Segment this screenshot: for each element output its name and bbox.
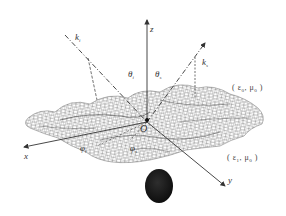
phi-s-subscript: s [135,149,137,154]
upper-medium-eps: ( ε [232,83,242,92]
z-axis-label: z [150,25,154,34]
diagram-graphics [0,0,286,216]
origin-point [145,118,149,122]
theta-s-subscript: s [159,75,161,80]
phi-s-label: φs [130,144,137,154]
k-s-subscript: s [206,63,208,68]
lower-medium-mu: , μ [240,153,250,162]
x-axis-label: x [24,152,28,161]
upper-medium-close: ) [257,83,263,92]
phi-i-label: φi [80,144,86,154]
phi-i-subscript: i [85,149,86,154]
lower-medium-close: ) [252,153,258,162]
k-i-label: ki [75,33,80,43]
lower-medium-label: ( ε1, μ0 ) [227,154,258,163]
theta-s-label: θs [155,70,161,80]
theta-i-subscript: i [132,75,133,80]
buried-object [145,169,173,203]
upper-medium-label: ( ε0, μ0 ) [232,84,263,93]
k-s-label: ks [202,58,208,68]
origin-label: O [140,124,147,134]
theta-i-label: θi [128,70,134,80]
upper-medium-mu: , μ [245,83,255,92]
lower-medium-eps: ( ε [227,153,237,162]
k-i-subscript: i [79,38,80,43]
y-axis-label: y [228,176,232,185]
scattering-diagram: z x y O ki ks θi θs φi φs ( ε0, μ0 ) ( ε… [0,0,286,216]
